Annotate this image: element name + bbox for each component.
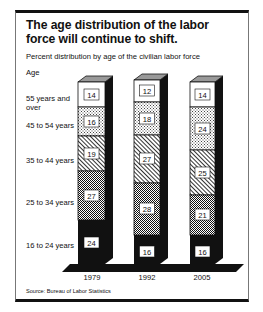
year-label-1992: 1992	[132, 273, 162, 282]
value-1979-55-over: 14	[87, 91, 95, 100]
source-note: Source: Bureau of Labor Statistics	[26, 288, 111, 294]
value-1992-25-34: 28	[143, 205, 151, 214]
value-1979-25-34: 27	[87, 192, 95, 201]
year-label-1979: 1979	[77, 273, 107, 282]
bar-1979	[78, 76, 113, 264]
value-1992-45-54: 18	[143, 115, 151, 124]
value-1992-55-over: 12	[143, 87, 151, 96]
stacked-bar-chart: 14 16 19 27 24 12 18 27 28 16 14 24 25 2…	[0, 0, 263, 312]
bar-1992	[134, 74, 168, 264]
value-1992-35-44: 27	[143, 155, 151, 164]
year-label-2005: 2005	[187, 273, 217, 282]
value-1992-16-24: 16	[143, 248, 151, 257]
chart-base-platform	[62, 264, 244, 272]
value-2005-55-over: 14	[198, 91, 206, 100]
value-1979-45-54: 16	[87, 118, 95, 127]
value-2005-16-24: 16	[198, 248, 206, 257]
value-2005-35-44: 25	[198, 169, 206, 178]
value-1979-35-44: 19	[87, 150, 95, 159]
value-1979-16-24: 24	[87, 239, 95, 248]
value-2005-25-34: 21	[198, 211, 206, 220]
value-2005-45-54: 24	[198, 125, 206, 134]
